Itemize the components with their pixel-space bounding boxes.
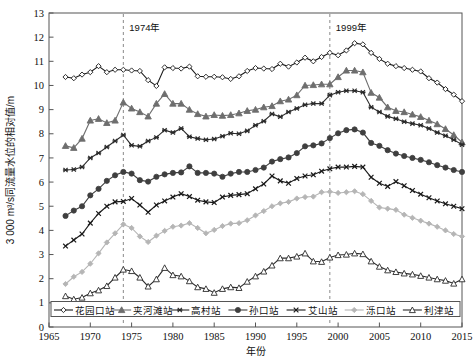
data-point-marker bbox=[63, 213, 68, 218]
y-tick-label: 2 bbox=[39, 273, 44, 284]
data-point-marker bbox=[377, 143, 382, 148]
x-tick-label: 1995 bbox=[286, 331, 307, 342]
annotation-label: 1974年 bbox=[129, 22, 160, 33]
data-point-marker bbox=[112, 173, 117, 178]
data-point-marker bbox=[410, 155, 415, 160]
x-tick-label: 1965 bbox=[39, 331, 60, 342]
data-point-marker bbox=[79, 204, 84, 209]
data-point-marker bbox=[327, 136, 332, 141]
data-point-marker bbox=[261, 165, 266, 170]
data-point-marker bbox=[137, 178, 142, 183]
data-point-marker bbox=[88, 193, 93, 198]
legend: 花园口站夹河滩站高村站孙口站艾山站泺口站利津站 bbox=[51, 302, 460, 317]
data-point-marker bbox=[245, 169, 250, 174]
line-chart: 0123456789101112131965197019751980198519… bbox=[0, 0, 473, 363]
data-point-marker bbox=[203, 170, 208, 175]
x-tick-label: 1975 bbox=[121, 331, 142, 342]
y-tick-label: 6 bbox=[39, 177, 44, 188]
data-point-marker bbox=[228, 171, 233, 176]
annotation-label: 1999年 bbox=[336, 22, 367, 33]
y-tick-label: 1 bbox=[39, 297, 44, 308]
y-tick-label: 5 bbox=[39, 201, 44, 212]
data-point-marker bbox=[402, 153, 407, 158]
data-point-marker bbox=[253, 167, 258, 172]
legend-item-label: 泺口站 bbox=[366, 305, 396, 316]
data-point-marker bbox=[121, 169, 126, 174]
legend-item-label: 花园口站 bbox=[75, 305, 115, 316]
legend-item-label: 高村站 bbox=[191, 305, 221, 316]
data-point-marker bbox=[336, 131, 341, 136]
data-point-marker bbox=[71, 208, 76, 213]
x-tick-label: 1990 bbox=[245, 331, 266, 342]
data-point-marker bbox=[302, 144, 307, 149]
data-point-marker bbox=[236, 169, 241, 174]
data-point-marker bbox=[443, 165, 448, 170]
data-point-marker bbox=[269, 159, 274, 164]
data-point-marker bbox=[212, 171, 217, 176]
x-tick-label: 1980 bbox=[162, 331, 183, 342]
data-point-marker bbox=[286, 155, 291, 160]
chart-figure: 0123456789101112131965197019751980198519… bbox=[0, 0, 473, 363]
data-point-marker bbox=[220, 174, 225, 179]
data-point-marker bbox=[129, 171, 134, 176]
x-axis-title: 年份 bbox=[246, 345, 266, 357]
y-tick-label: 7 bbox=[39, 153, 44, 164]
data-point-marker bbox=[393, 151, 398, 156]
y-tick-label: 3 bbox=[39, 249, 44, 260]
data-point-marker bbox=[179, 170, 184, 175]
data-point-marker bbox=[369, 140, 374, 145]
data-point-marker bbox=[426, 160, 431, 165]
y-tick-label: 9 bbox=[39, 104, 44, 115]
data-point-marker bbox=[195, 170, 200, 175]
legend-item-label: 孙口站 bbox=[249, 305, 279, 316]
x-tick-label: 2015 bbox=[452, 331, 473, 342]
y-tick-label: 8 bbox=[39, 128, 44, 139]
data-point-marker bbox=[187, 164, 192, 169]
data-point-marker bbox=[170, 170, 175, 175]
x-tick-label: 2005 bbox=[369, 331, 390, 342]
data-point-marker bbox=[104, 178, 109, 183]
data-point-marker bbox=[96, 186, 101, 191]
data-point-marker bbox=[162, 172, 167, 177]
legend-item-label: 利津站 bbox=[424, 305, 454, 316]
data-point-marker bbox=[294, 150, 299, 155]
data-point-marker bbox=[435, 163, 440, 168]
y-tick-label: 11 bbox=[34, 56, 44, 67]
data-point-marker bbox=[146, 179, 151, 184]
legend-item-label: 艾山站 bbox=[308, 305, 338, 316]
data-point-marker bbox=[319, 141, 324, 146]
data-point-marker bbox=[352, 127, 357, 132]
y-tick-label: 13 bbox=[34, 8, 45, 19]
data-point-marker bbox=[154, 174, 159, 179]
data-point-marker bbox=[385, 148, 390, 153]
data-point-marker bbox=[360, 130, 365, 135]
data-point-marker bbox=[235, 307, 240, 312]
data-point-marker bbox=[459, 169, 464, 174]
x-tick-label: 2000 bbox=[328, 331, 349, 342]
y-tick-label: 10 bbox=[34, 80, 45, 91]
y-tick-label: 12 bbox=[34, 32, 45, 43]
y-tick-label: 4 bbox=[39, 225, 45, 236]
x-tick-label: 1985 bbox=[204, 331, 225, 342]
x-tick-label: 2010 bbox=[410, 331, 431, 342]
data-point-marker bbox=[451, 167, 456, 172]
x-tick-label: 1970 bbox=[80, 331, 101, 342]
data-point-marker bbox=[418, 157, 423, 162]
y-axis-title: 3 000 m³/s同流量水位的相对值/m bbox=[4, 96, 16, 244]
data-point-marker bbox=[311, 143, 316, 148]
data-point-marker bbox=[344, 128, 349, 133]
legend-item-label: 夹河滩站 bbox=[133, 305, 173, 316]
data-point-marker bbox=[278, 157, 283, 162]
